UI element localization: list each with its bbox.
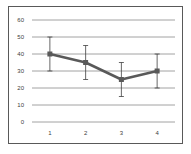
x-tick-label: 2 bbox=[84, 130, 88, 136]
x-tick-label: 4 bbox=[155, 130, 159, 136]
data-point-marker bbox=[155, 69, 160, 74]
y-tick-label: 60 bbox=[17, 17, 24, 23]
series-lines bbox=[50, 54, 157, 80]
y-axis-ticks: 0102030405060 bbox=[17, 17, 24, 125]
data-point-marker bbox=[83, 60, 88, 65]
series-markers bbox=[47, 52, 159, 83]
x-axis-ticks: 1234 bbox=[48, 130, 159, 136]
data-point-marker bbox=[47, 52, 52, 57]
y-tick-label: 50 bbox=[17, 34, 24, 40]
x-tick-label: 3 bbox=[120, 130, 124, 136]
x-tick-label: 1 bbox=[48, 130, 52, 136]
series-line bbox=[50, 54, 157, 80]
line-chart: 0102030405060 1234 bbox=[0, 0, 191, 154]
y-tick-label: 30 bbox=[17, 68, 24, 74]
y-tick-label: 10 bbox=[17, 102, 24, 108]
data-point-marker bbox=[119, 77, 124, 82]
error-bars bbox=[47, 37, 159, 97]
y-tick-label: 0 bbox=[21, 119, 25, 125]
y-tick-label: 40 bbox=[17, 51, 24, 57]
y-tick-label: 20 bbox=[17, 85, 24, 91]
